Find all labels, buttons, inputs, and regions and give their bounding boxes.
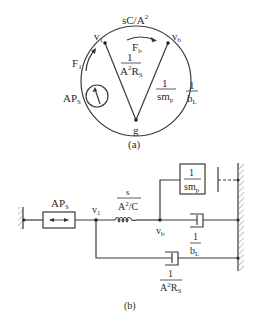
node-v1-label: v1 bbox=[94, 30, 104, 44]
node-g-label: g bbox=[133, 124, 139, 136]
svg-text:A2RS: A2RS bbox=[160, 281, 181, 295]
left-wall bbox=[18, 207, 23, 229]
node-vb-label: vb bbox=[156, 225, 165, 238]
svg-text:s: s bbox=[126, 187, 130, 197]
svg-text:1: 1 bbox=[127, 51, 133, 63]
label-bl: 1 bL bbox=[186, 79, 198, 106]
label-smp: 1 smp bbox=[156, 77, 176, 104]
label-mass: 1 smp bbox=[184, 167, 201, 194]
svg-text:bL: bL bbox=[187, 92, 197, 106]
flow-b-label: Fb bbox=[132, 41, 142, 55]
node-vb-label: vb bbox=[172, 30, 182, 44]
caption-a: (a) bbox=[128, 138, 141, 151]
svg-text:1: 1 bbox=[189, 79, 195, 91]
figure-b: APS v1 s A2/C vb 1 smp bbox=[18, 163, 244, 312]
top-branch-label: sC/A2 bbox=[122, 13, 149, 26]
node-v1 bbox=[103, 41, 107, 45]
svg-text:1: 1 bbox=[162, 77, 168, 89]
label-damper-rs: 1 A2RS bbox=[160, 268, 182, 295]
label-damper-bl: 1 bL bbox=[190, 231, 201, 258]
svg-text:bL: bL bbox=[190, 245, 199, 258]
svg-text:1: 1 bbox=[189, 167, 194, 178]
flow-1-label: F1 bbox=[72, 57, 82, 71]
flow-b-arrow-icon bbox=[127, 37, 155, 40]
double-arrow-icon bbox=[49, 218, 54, 222]
source-box-label: APS bbox=[51, 197, 69, 211]
flow-1-arrow-icon bbox=[86, 50, 95, 71]
node-vb bbox=[166, 41, 170, 45]
svg-text:A2RS: A2RS bbox=[120, 64, 143, 79]
inductor-icon bbox=[115, 218, 136, 223]
svg-text:smp: smp bbox=[184, 181, 200, 194]
source-label: APS bbox=[63, 92, 81, 106]
svg-text:1: 1 bbox=[168, 268, 173, 279]
caption-b: (b) bbox=[124, 300, 136, 312]
node-g bbox=[134, 118, 138, 122]
svg-text:1: 1 bbox=[193, 231, 198, 242]
figure-a: sC/A2 v1 vb g Fb F1 APS 1 A2RS 1 smp 1 b… bbox=[63, 13, 198, 151]
svg-text:smp: smp bbox=[157, 90, 174, 104]
label-a2rs: 1 A2RS bbox=[120, 51, 143, 79]
node-v1-label: v1 bbox=[92, 204, 101, 217]
svg-text:A2/C: A2/C bbox=[118, 200, 139, 212]
diagram-canvas: sC/A2 v1 vb g Fb F1 APS 1 A2RS 1 smp 1 b… bbox=[0, 0, 259, 324]
label-inductor: s A2/C bbox=[117, 187, 141, 212]
